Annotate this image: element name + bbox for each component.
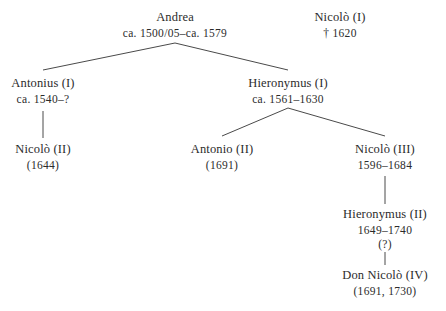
node-nicolo-1: Nicolò (I)† 1620 bbox=[314, 10, 365, 40]
node-dates-hieronymus-2: 1649–1740 bbox=[343, 223, 427, 237]
node-dates-andrea: ca. 1500/05–ca. 1579 bbox=[123, 26, 227, 40]
node-name-nicolo-1: Nicolò (I) bbox=[314, 10, 365, 26]
node-dates-nicolo-3: 1596–1684 bbox=[355, 158, 415, 172]
node-note-hieronymus-2: (?) bbox=[343, 237, 427, 251]
node-name-antonius-1: Antonius (I) bbox=[11, 76, 74, 92]
node-dates-nicolo-1: † 1620 bbox=[314, 26, 365, 40]
node-name-antonio-2: Antonio (II) bbox=[191, 142, 254, 158]
node-name-don-nicolo-4: Don Nicolò (IV) bbox=[342, 268, 428, 284]
node-name-hieronymus-2: Hieronymus (II) bbox=[343, 207, 427, 223]
connector-hieronymus-1-to-antonio-2 bbox=[222, 108, 288, 136]
node-andrea: Andreaca. 1500/05–ca. 1579 bbox=[123, 10, 227, 40]
node-antonio-2: Antonio (II)(1691) bbox=[191, 142, 254, 172]
node-nicolo-3: Nicolò (III)1596–1684 bbox=[355, 142, 415, 172]
node-hieronymus-1: Hieronymus (I)ca. 1561–1630 bbox=[248, 76, 328, 106]
connector-andrea-to-antonius-1 bbox=[43, 43, 175, 70]
connector-andrea-to-hieronymus-1 bbox=[175, 43, 288, 70]
node-don-nicolo-4: Don Nicolò (IV)(1691, 1730) bbox=[342, 268, 428, 298]
node-name-andrea: Andrea bbox=[123, 10, 227, 26]
node-dates-hieronymus-1: ca. 1561–1630 bbox=[248, 92, 328, 106]
node-dates-antonio-2: (1691) bbox=[191, 158, 254, 172]
node-antonius-1: Antonius (I)ca. 1540–? bbox=[11, 76, 74, 106]
node-nicolo-2: Nicolò (II)(1644) bbox=[15, 142, 70, 172]
node-name-nicolo-3: Nicolò (III) bbox=[355, 142, 415, 158]
node-dates-nicolo-2: (1644) bbox=[15, 158, 70, 172]
genealogy-chart: Andreaca. 1500/05–ca. 1579Nicolò (I)† 16… bbox=[0, 0, 446, 311]
connector-hieronymus-1-to-nicolo-3 bbox=[288, 108, 385, 136]
node-name-nicolo-2: Nicolò (II) bbox=[15, 142, 70, 158]
node-hieronymus-2: Hieronymus (II)1649–1740(?) bbox=[343, 207, 427, 251]
node-name-hieronymus-1: Hieronymus (I) bbox=[248, 76, 328, 92]
node-dates-don-nicolo-4: (1691, 1730) bbox=[342, 284, 428, 298]
node-dates-antonius-1: ca. 1540–? bbox=[11, 92, 74, 106]
